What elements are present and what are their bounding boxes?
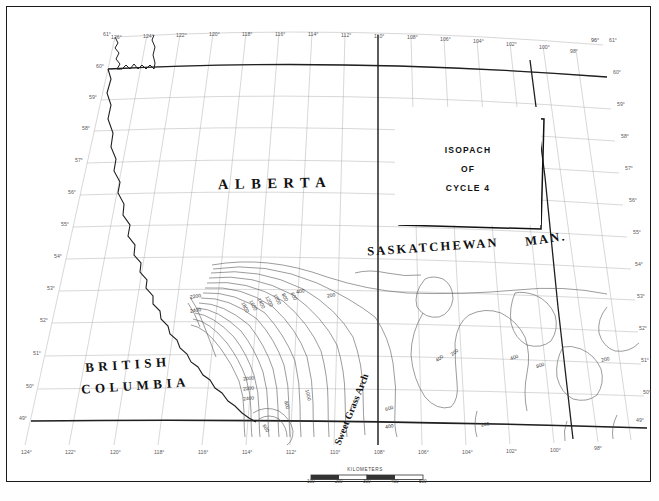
lat-right-58: 58° xyxy=(621,133,629,139)
scale-tick-100: 100 xyxy=(307,479,315,484)
lon-top-108: 108° xyxy=(407,34,418,40)
map-frame: ALBERTA SASKATCHEWAN MAN. BRITISH COLUMB… xyxy=(6,6,651,482)
lon-bot-108: 108° xyxy=(374,449,385,455)
scale-bar: KILOMETERS xyxy=(305,469,425,487)
title-line-3: CYCLE 4 xyxy=(395,183,541,193)
lon-bot-98: 98° xyxy=(594,445,602,451)
contour-label-2000-south: 2000 xyxy=(243,374,255,381)
lat-right-54: 54° xyxy=(635,261,643,267)
lat-left-59: 59° xyxy=(89,94,97,100)
lat-left-61: 61° xyxy=(103,31,111,37)
lat-left-53: 53° xyxy=(47,285,55,291)
lon-bot-122: 122° xyxy=(65,449,76,455)
lon-bot-110: 110° xyxy=(330,449,340,455)
contour-label-2400-south: 2400 xyxy=(243,394,255,401)
lat-left-51: 51° xyxy=(33,350,41,356)
contour-label-2200-south: 2200 xyxy=(243,384,255,391)
lon-top-114: 114° xyxy=(308,31,318,37)
lon-bot-124: 124° xyxy=(21,449,32,455)
lon-top-116: 116° xyxy=(275,31,285,37)
lon-bot-118: 118° xyxy=(154,449,164,455)
scale-tick-400: 400 xyxy=(391,479,399,484)
lon-bot-120: 120° xyxy=(110,449,121,455)
province-label-alberta: ALBERTA xyxy=(218,174,332,193)
lon-bot-100: 100° xyxy=(550,447,561,453)
lat-left-50: 50° xyxy=(26,383,34,389)
lon-top-96: 96° xyxy=(591,37,599,43)
lat-left-49: 49° xyxy=(19,415,27,421)
lat-right-49: 49° xyxy=(636,417,644,423)
lon-top-98: 98° xyxy=(570,48,578,54)
lon-top-122: 122° xyxy=(176,32,187,38)
lat-right-53: 53° xyxy=(637,293,645,299)
lat-right-51: 51° xyxy=(641,357,649,363)
lat-right-56: 56° xyxy=(629,197,637,203)
lat-left-52: 52° xyxy=(40,317,48,323)
lat-left-55: 55° xyxy=(61,221,69,227)
lon-top-118: 118° xyxy=(242,31,252,37)
lon-top-102: 102° xyxy=(506,41,517,47)
title-box: ISOPACH OF CYCLE 4 xyxy=(395,107,541,225)
title-line-1: ISOPACH xyxy=(395,145,541,155)
lat-right-61: 61° xyxy=(609,37,617,43)
lon-top-100: 100° xyxy=(539,44,550,50)
scale-tick-200: 200 xyxy=(335,479,343,484)
lon-top-124: 124° xyxy=(143,33,154,39)
lon-bot-116: 116° xyxy=(198,449,208,455)
lat-right-55: 55° xyxy=(633,229,641,235)
scale-title: KILOMETERS xyxy=(305,467,425,472)
lon-top-126: 126° xyxy=(111,34,122,40)
lat-left-58: 58° xyxy=(82,125,90,131)
lat-right-50: 50° xyxy=(643,389,651,395)
lon-bot-102: 102° xyxy=(506,448,517,454)
lon-bot-104: 104° xyxy=(462,449,473,455)
lat-left-54: 54° xyxy=(54,253,62,259)
lat-right-52: 52° xyxy=(639,325,647,331)
lon-bot-112: 112° xyxy=(286,449,296,455)
contour-label-200-north: 200 xyxy=(327,291,336,298)
lat-right-57: 57° xyxy=(625,165,633,171)
scale-tick-300: 300 xyxy=(363,479,371,484)
lon-top-110: 110° xyxy=(374,33,384,39)
lon-bot-106: 106° xyxy=(418,449,429,455)
lon-top-106: 106° xyxy=(440,36,451,42)
isopach-map-page: ALBERTA SASKATCHEWAN MAN. BRITISH COLUMB… xyxy=(0,0,659,501)
lat-left-60: 60° xyxy=(96,63,104,69)
contour-label-200-southeast: 200 xyxy=(481,420,490,427)
title-line-2: OF xyxy=(395,164,541,174)
lat-left-57: 57° xyxy=(75,157,83,163)
lon-top-120: 120° xyxy=(209,31,220,37)
lat-left-56: 56° xyxy=(68,189,76,195)
lon-top-112: 112° xyxy=(341,32,351,38)
lat-right-60: 60° xyxy=(613,69,621,75)
coastline xyxy=(115,35,155,69)
lat-right-59: 59° xyxy=(617,101,625,107)
scale-tick-500: 500 xyxy=(419,479,427,484)
lon-bot-114: 114° xyxy=(242,449,252,455)
lon-top-104: 104° xyxy=(473,38,484,44)
